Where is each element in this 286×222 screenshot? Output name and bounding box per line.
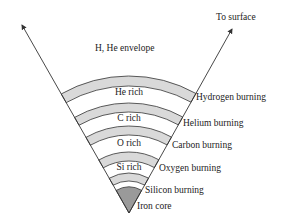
shell-label-he-rich: He rich (115, 88, 143, 98)
burning-label-helium: Helium burning (183, 119, 243, 129)
burning-label-hydrogen: Hydrogen burning (196, 93, 266, 103)
envelope-label: H, He envelope (95, 44, 154, 54)
burning-label-carbon: Carbon burning (172, 141, 232, 151)
burning-label-oxygen: Oxygen burning (159, 164, 221, 174)
burning-label-silicon: Silicon burning (145, 186, 204, 196)
silicon-burning-shell (109, 173, 148, 185)
onion-shell-diagram: To surface H, He envelope He rich C rich… (0, 0, 286, 222)
shell-label-o-rich: O rich (117, 139, 141, 149)
shell-label-c-rich: C rich (117, 114, 140, 124)
shell-wedge-graphic (0, 0, 286, 222)
to-surface-label: To surface (216, 13, 256, 23)
iron-core-label: Iron core (137, 202, 172, 212)
shell-label-si-rich: Si rich (116, 163, 141, 173)
